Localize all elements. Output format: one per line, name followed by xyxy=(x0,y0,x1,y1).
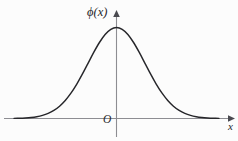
y-axis-label: ϕ(x) xyxy=(87,6,107,19)
plot-canvas xyxy=(0,0,238,141)
x-axis-label: x xyxy=(228,121,233,132)
y-axis-arrowhead xyxy=(113,10,120,17)
origin-label: O xyxy=(103,114,111,126)
normal-distribution-figure: ϕ(x) O x xyxy=(0,0,238,141)
